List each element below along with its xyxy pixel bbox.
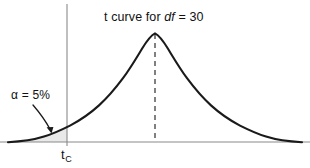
chart-title-suffix: = 30 xyxy=(175,10,204,24)
t-curve-plot xyxy=(0,0,310,168)
t-distribution-figure: t curve for df = 30 α = 5% tC xyxy=(0,0,310,168)
chart-title: t curve for df = 30 xyxy=(104,11,204,24)
alpha-arrow xyxy=(33,105,50,129)
critical-value-label: tC xyxy=(61,148,71,161)
alpha-label: α = 5% xyxy=(11,89,50,101)
critical-value-subscript: C xyxy=(65,154,72,164)
chart-title-prefix: t curve for xyxy=(104,10,164,24)
chart-title-df: df xyxy=(164,10,175,24)
